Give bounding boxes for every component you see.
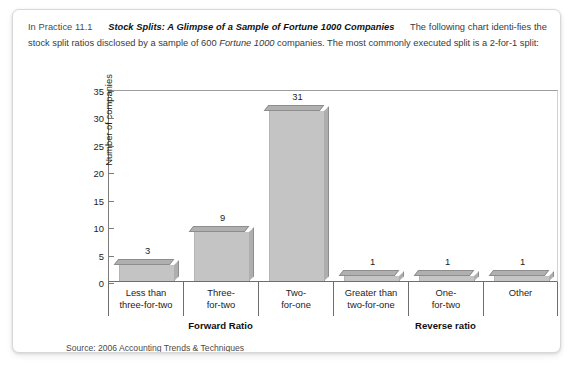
x-axis-category: Greater than two-for-one [333,282,408,316]
bar-value-label: 3 [120,245,176,256]
y-axis-tick-label: 0 [99,278,104,289]
source-note: Source: 2006 Accounting Trends & Techniq… [66,343,244,353]
bar-value-label: 1 [495,256,551,267]
x-axis-category: Less than three-for-two [108,282,183,316]
bar-slot: 1 [484,91,559,281]
bar-chart-plot-area: Number of companies 05101520253035 39311… [108,90,558,282]
bar-value-label: 1 [345,256,401,267]
bar-slot: 1 [409,91,484,281]
y-axis-tick-mark [109,146,114,147]
bar-column: 1 [419,276,475,281]
y-axis-tick-mark [109,201,114,202]
bar: 9 [194,232,250,281]
bar-column: 1 [344,276,400,281]
x-axis-category-label: Other [509,287,532,299]
in-practice-card: In Practice 11.1 Stock Splits: A Glimpse… [12,9,561,353]
y-axis-tick-mark [109,256,114,257]
x-axis-category: Other [483,282,558,316]
x-axis-category-label: Three- for-two [207,287,236,312]
bar-slot: 31 [259,91,334,281]
x-axis-category-label: Greater than two-for-one [345,287,398,312]
y-axis-tick-mark [109,173,114,174]
intro-title: Stock Splits: A Glimpse of a Sample of F… [108,22,394,32]
y-axis-tick-mark [109,91,114,92]
y-axis-tick-label: 15 [94,195,104,206]
y-axis-tick-label: 30 [94,113,104,124]
y-axis-tick-label: 10 [94,223,104,234]
intro-body-part-2: companies. The most commonly executed sp… [275,38,539,48]
x-axis-category-label: Less than three-for-two [119,287,172,312]
y-axis-tick-mark [109,118,114,119]
bar-value-label: 9 [195,212,251,223]
x-axis-categories: Less than three-for-twoThree- for-twoTwo… [108,282,558,316]
y-axis-tick-label: 5 [99,250,104,261]
bar-value-label: 31 [270,91,326,102]
bar-slot: 3 [109,91,184,281]
bar-column: 31 [269,111,325,281]
x-axis-category: Three- for-two [183,282,258,316]
bar: 3 [119,265,175,281]
x-axis-category: One- for-two [408,282,483,316]
y-axis-tick-label: 35 [94,86,104,97]
x-axis-category-label: One- for-two [432,287,461,312]
group-label: Reverse ratio [333,320,558,331]
bar: 1 [494,276,550,281]
y-axis-tick-label: 25 [94,140,104,151]
bar-slot: 9 [184,91,259,281]
x-axis-category-label: Two- for-one [281,287,311,312]
intro-body-italic: Fortune 1000 [219,38,274,48]
group-label: Forward Ratio [108,320,333,331]
bar-column: 1 [494,276,550,281]
y-axis-tick-label: 20 [94,168,104,179]
bar: 1 [344,276,400,281]
bar: 1 [419,276,475,281]
bar-column: 9 [194,232,250,281]
bar-slot: 1 [334,91,409,281]
bar: 31 [269,111,325,281]
x-axis-category: Two- for-one [258,282,333,316]
intro-lead-label: In Practice 11.1 [28,22,92,32]
bar-column: 3 [119,265,175,281]
y-axis-tick-mark [109,228,114,229]
bar-value-label: 1 [420,256,476,267]
